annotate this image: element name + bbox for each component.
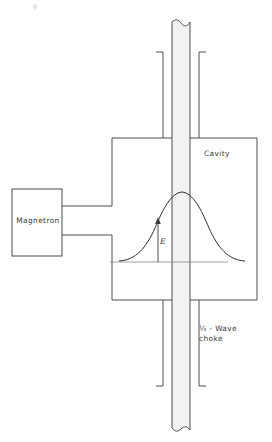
choke-label-line1: ¼ - Wave xyxy=(199,324,237,334)
corner-mark: g xyxy=(33,2,37,9)
cavity-label: Cavity xyxy=(204,149,230,158)
magnetron-label: Magnetron xyxy=(14,216,62,225)
choke-arm-upper-left xyxy=(156,52,163,138)
quarter-wave-choke-label: ¼ - Wave choke xyxy=(199,324,237,344)
figure-canvas: g Magnetron Cavity ¼ - Wave choke E xyxy=(0,0,272,442)
choke-arm-lower-left xyxy=(156,300,163,386)
e-field-arrow-head xyxy=(155,217,161,224)
choke-arm-upper-right xyxy=(199,52,206,138)
e-field-label: E xyxy=(160,237,166,246)
vertical-tube xyxy=(172,20,190,431)
choke-label-line2: choke xyxy=(199,334,237,344)
